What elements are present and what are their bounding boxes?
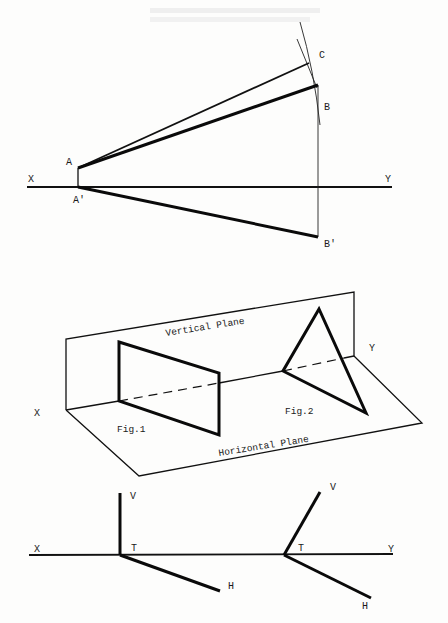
label-h-left: H — [228, 581, 234, 592]
bleed-through-text — [150, 17, 310, 22]
label-v-left: V — [130, 491, 136, 502]
label-b: B — [324, 102, 330, 113]
line-ab-elevation — [78, 85, 318, 168]
label-fig1: Fig.1 — [117, 424, 146, 435]
hidden-ground-line — [119, 383, 219, 401]
line-ac — [78, 63, 309, 168]
label-v-right: V — [330, 482, 336, 493]
label-y: Y — [385, 174, 391, 185]
label-x: X — [28, 174, 34, 185]
ground-line-segment — [66, 401, 119, 410]
label-horizontal-plane: Horizontal Plane — [218, 434, 310, 459]
figure-top-true-length: X Y A A' C B B' — [27, 8, 392, 250]
label-a: A — [66, 157, 72, 168]
label-a-prime: A' — [73, 195, 85, 206]
label-y: Y — [388, 544, 394, 555]
label-x: X — [34, 544, 40, 555]
vertical-plane-outline — [66, 292, 354, 410]
label-y: Y — [369, 343, 375, 354]
label-c: C — [319, 50, 325, 61]
label-fig2: Fig.2 — [285, 406, 314, 417]
horizontal-trace-right — [284, 555, 371, 598]
figure-bottom-traces: X Y V T H V T H — [29, 482, 394, 612]
technical-drawing: X Y A A' C B B' Vertical Plane Horizonta… — [0, 0, 448, 623]
ground-line-segment — [344, 356, 354, 358]
line-ab-plan — [78, 187, 318, 237]
horizontal-trace-left — [120, 555, 220, 591]
figure-middle-planes: Vertical Plane Horizontal Plane X Y Fig.… — [34, 292, 422, 476]
label-vertical-plane: Vertical Plane — [165, 316, 246, 339]
ground-line-segment — [219, 371, 283, 383]
label-t-left: T — [131, 543, 137, 554]
label-h-right: H — [362, 601, 368, 612]
hidden-ground-line — [283, 358, 344, 371]
label-x: X — [34, 408, 40, 419]
construction-arc — [300, 22, 320, 125]
xy-reference-line — [29, 554, 393, 555]
drawing-page: X Y A A' C B B' Vertical Plane Horizonta… — [0, 0, 448, 623]
label-t-right: T — [298, 543, 304, 554]
fig1-lamina — [119, 342, 219, 435]
label-b-prime: B' — [324, 239, 336, 250]
bleed-through-text — [150, 8, 320, 13]
